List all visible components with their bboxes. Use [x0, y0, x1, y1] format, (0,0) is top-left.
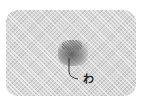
callout-label: わ [83, 74, 94, 85]
leader-line [0, 0, 142, 101]
